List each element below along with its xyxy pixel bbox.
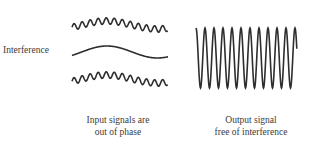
input-caption-line2: out of phase bbox=[68, 126, 168, 138]
output-signal-wave bbox=[196, 28, 297, 88]
output-caption: Output signal free of interference bbox=[196, 114, 306, 138]
output-caption-line2: free of interference bbox=[196, 126, 306, 138]
input-signal-bottom-wave bbox=[72, 72, 168, 86]
interference-wave bbox=[72, 46, 168, 58]
input-caption: Input signals are out of phase bbox=[68, 114, 168, 138]
input-signal-top-wave bbox=[72, 18, 168, 32]
output-caption-line1: Output signal bbox=[196, 114, 306, 126]
input-caption-line1: Input signals are bbox=[68, 114, 168, 126]
